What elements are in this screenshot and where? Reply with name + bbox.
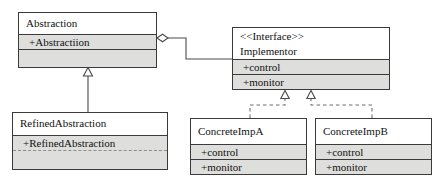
class-header-concrete-imp-a: ConcreteImpA — [191, 119, 306, 144]
class-name-concrete-imp-b: ConcreteImpB — [316, 124, 431, 139]
member-implementor-1: +monitor — [233, 75, 389, 89]
class-header-implementor: <<Interface>> Implementor — [233, 28, 389, 59]
member-concrete-imp-a-1: +monitor — [191, 160, 306, 174]
class-members-concrete-imp-b: +control +monitor — [316, 144, 431, 174]
class-box-concrete-imp-a[interactable]: ConcreteImpA +control +monitor — [190, 118, 307, 175]
class-name-concrete-imp-a: ConcreteImpA — [191, 124, 306, 139]
edge-abstraction-aggregates-implementor — [157, 34, 232, 59]
uml-class-diagram-canvas: Abstraction +Abstractiion <<Interface>> … — [0, 0, 445, 182]
class-header-refined-abstraction: RefinedAbstraction — [13, 113, 167, 135]
class-box-concrete-imp-b[interactable]: ConcreteImpB +control +monitor — [315, 118, 432, 175]
class-name-implementor: Implementor — [233, 44, 389, 59]
class-members-filler-abstraction — [19, 50, 156, 67]
member-implementor-0: +control — [233, 60, 389, 75]
class-members-abstraction: +Abstractiion — [19, 34, 156, 67]
edge-impa-realizes-implementor — [250, 91, 289, 119]
class-stereotype-implementor: <<Interface>> — [233, 29, 389, 44]
class-header-abstraction: Abstraction — [19, 13, 156, 34]
member-abstraction-0: +Abstractiion — [19, 35, 156, 50]
class-box-abstraction[interactable]: Abstraction +Abstractiion — [18, 12, 157, 68]
edge-impb-realizes-implementor — [307, 91, 372, 119]
class-members-concrete-imp-a: +control +monitor — [191, 144, 306, 174]
class-members-implementor: +control +monitor — [233, 59, 389, 89]
class-name-refined-abstraction: RefinedAbstraction — [13, 116, 167, 131]
class-box-refined-abstraction[interactable]: RefinedAbstraction +RefinedAbstraction — [12, 112, 168, 170]
member-concrete-imp-a-0: +control — [191, 145, 306, 160]
class-members-filler-refined-abstraction — [13, 151, 167, 169]
edge-refined-extends-abstraction — [84, 68, 93, 113]
member-refined-abstraction-0: +RefinedAbstraction — [13, 136, 167, 151]
member-concrete-imp-b-0: +control — [316, 145, 431, 160]
class-box-implementor[interactable]: <<Interface>> Implementor +control +moni… — [232, 27, 390, 90]
member-concrete-imp-b-1: +monitor — [316, 160, 431, 174]
class-header-concrete-imp-b: ConcreteImpB — [316, 119, 431, 144]
class-name-abstraction: Abstraction — [19, 16, 156, 31]
class-members-refined-abstraction: +RefinedAbstraction — [13, 135, 167, 169]
